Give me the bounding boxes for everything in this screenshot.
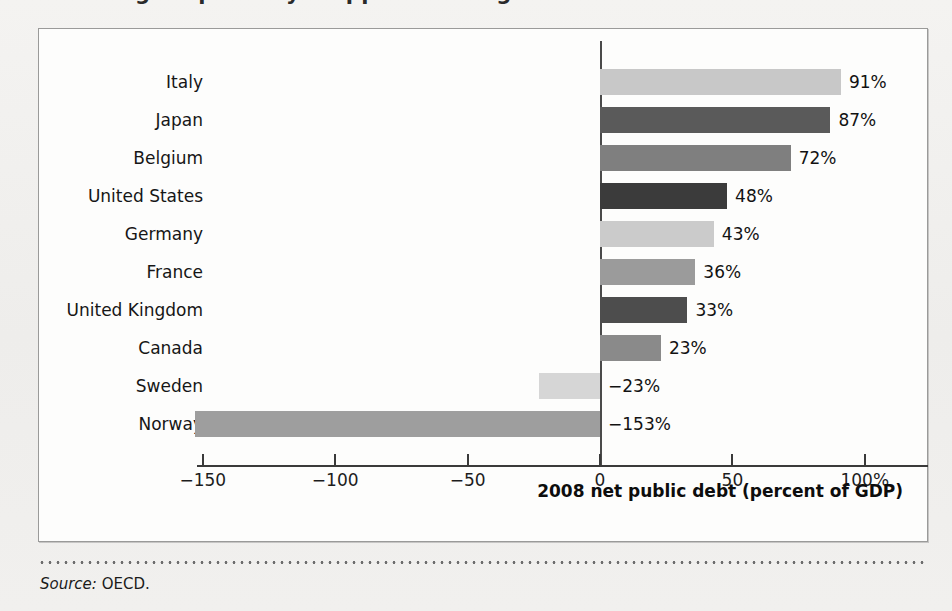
- category-label: France: [146, 262, 203, 282]
- bar-value-label: 36%: [703, 262, 741, 282]
- bar-row[interactable]: Germany43%: [39, 215, 929, 253]
- x-tick-mark: [467, 454, 469, 466]
- bar-value-label: 33%: [695, 300, 733, 320]
- chart-plot-area: −150−100−50050100% Italy91%Japan87%Belgi…: [39, 29, 927, 541]
- bar-row[interactable]: Sweden−23%: [39, 367, 929, 405]
- footer-dotted-divider: [38, 561, 928, 564]
- x-tick-label: −50: [450, 470, 486, 490]
- source-value: OECD.: [97, 575, 150, 593]
- bar-row[interactable]: United Kingdom33%: [39, 291, 929, 329]
- bar[interactable]: [600, 221, 714, 247]
- bar[interactable]: [600, 183, 727, 209]
- bar-row[interactable]: France36%: [39, 253, 929, 291]
- bar-value-label: 87%: [838, 110, 876, 130]
- category-label: Belgium: [133, 148, 203, 168]
- bar[interactable]: [600, 259, 695, 285]
- category-label: Norway: [139, 414, 204, 434]
- x-tick-mark: [599, 454, 601, 466]
- category-label: Germany: [125, 224, 203, 244]
- x-tick-mark: [731, 454, 733, 466]
- bar-row[interactable]: Belgium72%: [39, 139, 929, 177]
- clipped-headline-above-figure: figure partially cropped heading: [0, 0, 952, 14]
- figure-frame: −150−100−50050100% Italy91%Japan87%Belgi…: [38, 28, 928, 542]
- bar-value-label: 48%: [735, 186, 773, 206]
- bar[interactable]: [600, 107, 830, 133]
- bar[interactable]: [600, 297, 687, 323]
- x-tick-label: −150: [179, 470, 226, 490]
- x-axis-baseline: [197, 465, 928, 467]
- x-tick-mark: [334, 454, 336, 466]
- bar[interactable]: [600, 335, 661, 361]
- x-tick-mark: [202, 454, 204, 466]
- category-label: Italy: [166, 72, 203, 92]
- bar-value-label: −153%: [608, 414, 671, 434]
- clipped-headline-text: figure partially cropped heading: [118, 0, 512, 5]
- page-canvas: figure partially cropped heading −150−10…: [0, 0, 952, 611]
- bar-value-label: 72%: [799, 148, 837, 168]
- bar-row[interactable]: United States48%: [39, 177, 929, 215]
- category-label: Japan: [156, 110, 203, 130]
- bar-row[interactable]: Norway−153%: [39, 405, 929, 443]
- bar[interactable]: [600, 69, 841, 95]
- x-axis-title: 2008 net public debt (percent of GDP): [537, 481, 903, 501]
- bar-value-label: 23%: [669, 338, 707, 358]
- x-tick-label: −100: [312, 470, 359, 490]
- category-label: United States: [88, 186, 203, 206]
- bar-row[interactable]: Canada23%: [39, 329, 929, 367]
- x-tick-mark: [864, 454, 866, 466]
- bar-row[interactable]: Italy91%: [39, 63, 929, 101]
- category-label: United Kingdom: [67, 300, 203, 320]
- bar-row[interactable]: Japan87%: [39, 101, 929, 139]
- category-label: Canada: [138, 338, 203, 358]
- bar[interactable]: [600, 145, 791, 171]
- bar-value-label: 91%: [849, 72, 887, 92]
- category-label: Sweden: [136, 376, 203, 396]
- source-label: Source:: [40, 575, 97, 593]
- bar[interactable]: [195, 411, 600, 437]
- bar[interactable]: [539, 373, 600, 399]
- bar-value-label: −23%: [608, 376, 660, 396]
- source-note: Source: OECD.: [40, 575, 150, 593]
- bar-value-label: 43%: [722, 224, 760, 244]
